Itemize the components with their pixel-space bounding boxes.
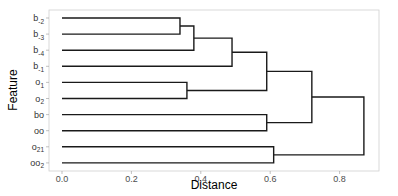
x-tick-label: 0.2 (125, 174, 138, 184)
leaf-label: o21 (32, 142, 45, 154)
x-axis-title: Distance (191, 178, 238, 192)
dendrogram-link (274, 97, 364, 155)
x-tick-label: 0.0 (56, 174, 69, 184)
y-axis-title: Feature (6, 69, 20, 111)
leaf-label: b-2 (33, 13, 44, 25)
leaf-label: oo (34, 126, 44, 136)
dendrogram-links (62, 18, 364, 163)
dendrogram-link (62, 115, 267, 131)
y-axis-labels: b-2b-3b-4b-1o1o2boooo21oo2 (30, 13, 49, 169)
dendrogram-link (62, 26, 194, 50)
dendrogram-link (267, 71, 312, 122)
dendrogram-link (62, 147, 274, 163)
leaf-label: b-1 (33, 61, 44, 73)
dendrogram-link (62, 18, 180, 34)
leaf-label: b-4 (33, 45, 44, 57)
dendrogram-link (62, 38, 232, 66)
dendrogram-chart: b-2b-3b-4b-1o1o2boooo21oo2 0.00.20.40.60… (0, 0, 398, 196)
leaf-label: b-3 (33, 29, 44, 41)
x-tick-label: 0.6 (264, 174, 277, 184)
dendrogram-link (187, 52, 267, 90)
leaf-label: o2 (35, 94, 44, 106)
leaf-label: oo2 (30, 158, 44, 170)
dendrogram-link (62, 82, 187, 98)
leaf-label: bo (34, 110, 44, 120)
x-tick-label: 0.8 (333, 174, 346, 184)
leaf-label: o1 (35, 77, 44, 89)
